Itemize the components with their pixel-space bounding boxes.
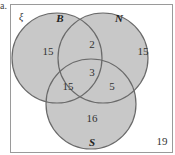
set-n-label: N	[114, 12, 124, 24]
region-outside: 19	[157, 135, 169, 147]
region-n-only: 15	[138, 45, 150, 57]
region-b-n-s: 3	[89, 66, 95, 78]
region-s-only: 16	[87, 112, 99, 124]
universal-set-symbol: ξ	[19, 11, 24, 23]
region-b-and-s: 15	[63, 80, 75, 92]
region-b-and-n: 2	[89, 38, 95, 50]
region-b-only: 15	[43, 45, 55, 57]
region-n-and-s: 5	[109, 80, 115, 92]
venn-diagram: ξ B N S 15 15 16 2 15 5 3 19	[0, 0, 175, 155]
set-s-label: S	[89, 136, 95, 148]
set-b-label: B	[55, 12, 63, 24]
